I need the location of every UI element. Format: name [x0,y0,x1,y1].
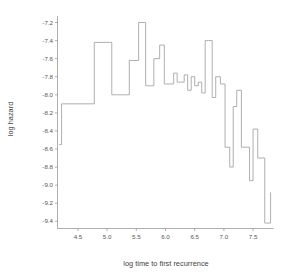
figure-container: -7.2-7.4-7.6-7.8-8.0-8.2-8.4-8.6-8.8-9.0… [0,0,281,276]
x-tick-label: 5.5 [132,233,141,240]
x-tick-label: 6.0 [161,233,170,240]
y-tick-label: -8.2 [42,109,53,116]
x-tick-label: 6.5 [190,233,199,240]
y-tick-label: -7.8 [42,73,53,80]
y-axis-title: log hazard [6,102,15,137]
x-tick-label: 7.0 [220,233,229,240]
y-tick-label: -8.4 [42,127,53,134]
x-tick-label: 7.5 [249,233,258,240]
y-tick-label: -7.2 [42,19,53,26]
x-tick-label: 4.5 [74,233,83,240]
hazard-step-line [59,23,270,224]
plot-area [59,23,270,224]
y-axis: -7.2-7.4-7.6-7.8-8.0-8.2-8.4-8.6-8.8-9.0… [42,16,57,229]
x-tick-group: 4.55.05.56.06.57.07.5 [74,229,258,240]
y-tick-group: -7.2-7.4-7.6-7.8-8.0-8.2-8.4-8.6-8.8-9.0… [42,19,57,225]
x-axis-title: log time to first recurrence [123,259,208,268]
hazard-step-chart: -7.2-7.4-7.6-7.8-8.0-8.2-8.4-8.6-8.8-9.0… [0,0,281,276]
x-axis: 4.55.05.56.06.57.07.5 [58,229,274,240]
y-tick-label: -9.2 [42,199,53,206]
y-tick-label: -7.6 [42,55,53,62]
x-tick-label: 5.0 [103,233,112,240]
y-tick-label: -8.0 [42,91,53,98]
y-tick-label: -8.6 [42,145,53,152]
y-tick-label: -9.4 [42,217,53,224]
y-tick-label: -8.8 [42,163,53,170]
y-tick-label: -7.4 [42,37,53,44]
y-tick-label: -9.0 [42,181,53,188]
